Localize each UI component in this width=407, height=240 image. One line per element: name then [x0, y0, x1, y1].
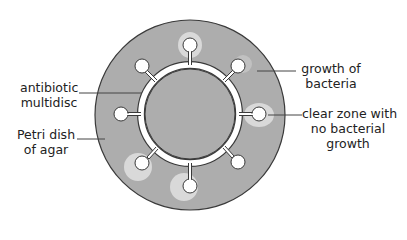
multidisc-center [145, 69, 235, 159]
label-growth-of-bacteria: growth of bacteria [298, 61, 364, 91]
disc-left [114, 107, 128, 121]
disc-bottom-right [231, 155, 245, 169]
label-line: growth [302, 136, 394, 151]
disc-bottom [183, 179, 197, 193]
disc-bottom-left [135, 156, 149, 170]
label-clear-zone: clear zone with no bacterial growth [302, 106, 394, 151]
label-line: Petri dish [14, 127, 78, 142]
label-line: antibiotic [20, 80, 78, 95]
disc-top-right [231, 59, 245, 73]
disc-top [183, 38, 197, 52]
label-line: no bacterial [302, 121, 394, 136]
label-line: of agar [14, 142, 78, 157]
label-petri-dish: Petri dish of agar [14, 127, 78, 157]
label-line: bacteria [298, 76, 364, 91]
label-line: clear zone with [302, 106, 394, 121]
disc-right [252, 107, 266, 121]
disc-top-left [135, 59, 149, 73]
label-line: multidisc [20, 95, 78, 110]
label-line: growth of [298, 61, 364, 76]
label-antibiotic-multidisc: antibiotic multidisc [20, 80, 78, 110]
